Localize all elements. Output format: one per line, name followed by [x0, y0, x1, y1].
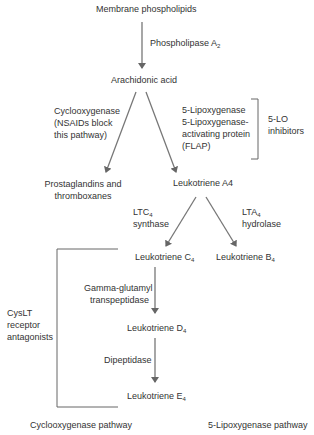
- pg-line-2: thromboxanes: [38, 190, 128, 202]
- node-leukotriene-d4: Leukotriene D4: [127, 323, 186, 334]
- node-membrane-phospholipids: Membrane phospholipids: [96, 4, 197, 15]
- subscript: 4: [183, 396, 186, 402]
- node-leukotriene-c4: Leukotriene C4: [135, 252, 194, 263]
- ltc4s-line-2: synthase: [133, 218, 169, 230]
- lta4h-line-2: hydrolase: [242, 218, 281, 230]
- cox-line-2: (NSAIDs block: [54, 117, 120, 129]
- node-arachidonic-acid: Arachidonic acid: [111, 75, 177, 86]
- enzyme-dipeptidase: Dipeptidase: [104, 355, 152, 366]
- enzyme-5-lipoxygenase-flap: 5-Lipoxygenase 5-Lipoxygenase- activatin…: [182, 104, 250, 152]
- ltc4-text: Leukotriene C: [135, 252, 191, 262]
- enzyme-ltc4-synthase: LTC4 synthase: [133, 206, 169, 230]
- ltb4-text: Leukotriene B: [216, 252, 272, 262]
- lta4h-text: LTA: [242, 207, 257, 217]
- footer-5-lipoxygenase-pathway: 5-Lipoxygenase pathway: [208, 420, 308, 431]
- ltc4s-text: LTC: [133, 207, 149, 217]
- 5lo-line-2: inhibitors: [268, 125, 304, 137]
- 5lo-line-1: 5-LO: [268, 113, 304, 125]
- enzyme-lta4-hydrolase: LTA4 hydrolase: [242, 206, 281, 230]
- bracket-5lo: [251, 99, 258, 159]
- label-5lo-inhibitors: 5-LO inhibitors: [268, 113, 304, 137]
- subscript: 4: [183, 328, 186, 334]
- subscript: 2: [217, 43, 220, 49]
- enzyme-label: Phospholipase A: [150, 38, 217, 48]
- subscript: 4: [191, 257, 194, 263]
- label-cyslt-receptor-antagonists: CysLT receptor antagonists: [7, 307, 53, 343]
- arrow-lox: [146, 92, 176, 172]
- lox-line-2: 5-Lipoxygenase-: [182, 116, 250, 128]
- arrow-ltc4s: [166, 197, 196, 246]
- arrow-lta4h: [206, 197, 236, 246]
- cyslt-line-1: CysLT: [7, 307, 53, 319]
- lox-line-3: activating protein: [182, 128, 250, 140]
- ggt-line-2: transpeptidase: [84, 294, 149, 306]
- ggt-line-1: Gamma-glutamyl: [84, 282, 149, 294]
- cyslt-line-3: antagonists: [7, 331, 53, 343]
- cox-line-3: this pathway): [54, 129, 120, 141]
- node-leukotriene-b4: Leukotriene B4: [216, 252, 275, 263]
- pg-line-1: Prostaglandins and: [38, 178, 128, 190]
- footer-cyclooxygenase-pathway: Cyclooxygenase pathway: [30, 420, 132, 431]
- lox-line-1: 5-Lipoxygenase: [182, 104, 250, 116]
- lte4-text: Leukotriene E: [127, 391, 183, 401]
- node-prostaglandins-thromboxanes: Prostaglandins and thromboxanes: [38, 178, 128, 202]
- node-leukotriene-e4: Leukotriene E4: [127, 391, 186, 402]
- ltc4s-line-1: LTC4: [133, 206, 169, 218]
- enzyme-gamma-glutamyl-transpeptidase: Gamma-glutamyl transpeptidase: [84, 282, 149, 306]
- lox-line-4: (FLAP): [182, 140, 250, 152]
- node-leukotriene-a4: Leukotriene A4: [173, 178, 233, 189]
- ltd4-text: Leukotriene D: [127, 323, 183, 333]
- cyslt-line-2: receptor: [7, 319, 53, 331]
- enzyme-cyclooxygenase: Cyclooxygenase (NSAIDs block this pathwa…: [54, 105, 120, 141]
- bracket-cyslt: [57, 249, 118, 407]
- enzyme-phospholipase-a2: Phospholipase A2: [150, 38, 220, 49]
- lta4h-line-1: LTA4: [242, 206, 281, 218]
- cox-line-1: Cyclooxygenase: [54, 105, 120, 117]
- subscript: 4: [272, 257, 275, 263]
